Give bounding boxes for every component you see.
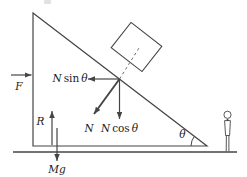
label-n-cos-theta: Ncosθ [101,122,138,133]
arrow-n-normal [94,79,120,114]
label-theta: θ [179,129,185,140]
n-sin-var: N [52,71,61,83]
scan-artifact [44,0,51,4]
person-torso [225,121,231,136]
block-outline [111,22,162,71]
label-mg: Mg [48,163,65,174]
person-figure [224,111,231,151]
label-n-sin-theta: Nsinθ [52,72,87,83]
label-r: R [37,116,45,127]
f-var: F [15,79,22,91]
n-sin-fn: sin [64,71,80,83]
n-cos-angle: θ [132,121,138,133]
person-legs [226,136,229,152]
n-var: N [84,121,93,133]
mg-var: Mg [48,162,65,174]
incline-free-body-diagram: F R Mg Nsinθ N Ncosθ θ [0,0,247,177]
diagram-svg [0,0,247,177]
n-cos-var: N [101,121,110,133]
theta-var: θ [179,128,185,140]
n-cos-fn: cos [112,121,130,133]
label-f: F [15,80,22,91]
r-var: R [37,115,45,127]
dashed-connector-line [120,48,140,79]
angle-arc [191,136,195,146]
person-head [224,111,231,118]
n-sin-angle: θ [81,71,87,83]
label-n: N [84,122,93,133]
